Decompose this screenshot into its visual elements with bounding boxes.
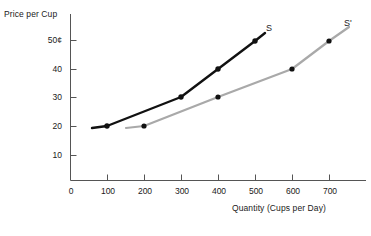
data-point-original-100-20 <box>104 123 109 128</box>
y-tick-label-10: 10 <box>36 150 62 160</box>
x-tick-label-100: 100 <box>96 186 120 196</box>
x-tick-label-400: 400 <box>207 186 231 196</box>
data-point-shifted-700-50 <box>326 38 331 43</box>
x-tick-label-700: 700 <box>318 186 342 196</box>
supply-curve-shifted <box>126 27 349 129</box>
x-tick-label-600: 600 <box>281 186 305 196</box>
x-axis-title: Quantity (Cups per Day) <box>232 203 326 213</box>
data-point-shifted-400-30 <box>215 94 220 99</box>
x-tick-label-300: 300 <box>170 186 194 196</box>
y-tick-label-50: 50¢ <box>36 35 62 45</box>
data-point-original-400-40 <box>215 66 220 71</box>
data-point-shifted-600-40 <box>289 66 294 71</box>
x-tick-label-500: 500 <box>244 186 268 196</box>
data-point-original-300-30 <box>178 94 183 99</box>
supply-curve-original <box>92 33 265 129</box>
y-tick-label-30: 30 <box>36 92 62 102</box>
y-tick-label-20: 20 <box>36 121 62 131</box>
supply-curve-shifted-line <box>126 27 349 128</box>
curve-label-supply-shifted: S' <box>344 18 352 28</box>
y-axis-title: Price per Cup <box>4 9 57 19</box>
x-tick-label-200: 200 <box>133 186 157 196</box>
data-point-original-500-50 <box>252 38 257 43</box>
x-tick-label-0: 0 <box>59 186 83 196</box>
data-point-shifted-200-20 <box>141 123 146 128</box>
y-tick-label-40: 40 <box>36 64 62 74</box>
y-axis-ticks <box>71 41 77 156</box>
x-axis-ticks <box>108 175 330 181</box>
supply-curve-original-line <box>92 33 265 128</box>
curve-label-supply-original: S <box>266 23 272 33</box>
supply-curve-chart: Price per Cup Quantity (Cups per Day) 50… <box>0 0 371 236</box>
